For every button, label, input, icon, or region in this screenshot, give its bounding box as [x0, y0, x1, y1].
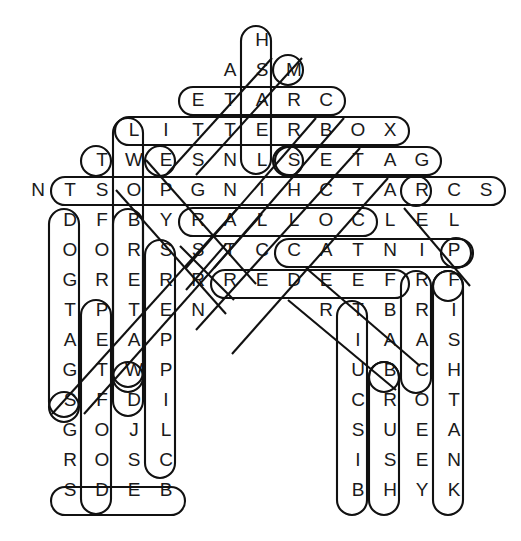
grid-letter: E — [406, 445, 438, 475]
grid-letter: E — [150, 145, 182, 175]
grid-letter: A — [214, 205, 246, 235]
grid-letter: T — [342, 295, 374, 325]
grid-letter: B — [118, 205, 150, 235]
grid-letter: E — [118, 265, 150, 295]
grid-letter: E — [182, 85, 214, 115]
grid-letter: S — [182, 145, 214, 175]
grid-letter: B — [374, 355, 406, 385]
grid-letter: L — [374, 205, 406, 235]
grid-letter: P — [150, 355, 182, 385]
grid-letter: R — [406, 295, 438, 325]
grid-letter: A — [374, 145, 406, 175]
grid-letter: S — [54, 475, 86, 505]
grid-letter: O — [86, 415, 118, 445]
grid-letter: T — [214, 235, 246, 265]
grid-letter: R — [118, 235, 150, 265]
grid-letter: R — [278, 115, 310, 145]
grid-letter: G — [54, 415, 86, 445]
grid-letter: R — [406, 265, 438, 295]
grid-letter: C — [278, 235, 310, 265]
grid-letter: O — [310, 205, 342, 235]
grid-letter: T — [54, 175, 86, 205]
grid-letter: A — [246, 85, 278, 115]
grid-letter: B — [310, 115, 342, 145]
grid-letter: O — [86, 445, 118, 475]
grid-letter: H — [246, 25, 278, 55]
grid-letter: A — [406, 325, 438, 355]
grid-letter: L — [246, 205, 278, 235]
grid-letter: H — [438, 355, 470, 385]
grid-letter: T — [214, 85, 246, 115]
grid-letter: A — [374, 325, 406, 355]
grid-letter: T — [86, 145, 118, 175]
grid-letter: N — [22, 175, 54, 205]
grid-letter: G — [182, 175, 214, 205]
grid-letter: R — [214, 265, 246, 295]
grid-letter: F — [374, 265, 406, 295]
grid-letter: T — [342, 235, 374, 265]
grid-letter: G — [54, 265, 86, 295]
grid-letter: I — [342, 445, 374, 475]
grid-letter: O — [54, 235, 86, 265]
grid-letter: O — [406, 385, 438, 415]
grid-letter: T — [86, 355, 118, 385]
grid-letter: I — [150, 385, 182, 415]
grid-letter: C — [310, 175, 342, 205]
grid-letter: N — [182, 295, 214, 325]
grid-letter: R — [150, 265, 182, 295]
grid-letter: E — [150, 295, 182, 325]
grid-letter: S — [150, 235, 182, 265]
grid-letter: U — [374, 415, 406, 445]
grid-letter: R — [406, 175, 438, 205]
grid-letter: K — [438, 475, 470, 505]
grid-letter: P — [86, 295, 118, 325]
grid-letter: S — [86, 175, 118, 205]
grid-letter: O — [86, 235, 118, 265]
grid-letter: I — [246, 175, 278, 205]
grid-letter: E — [310, 145, 342, 175]
grid-letter: E — [406, 205, 438, 235]
grid-letter: E — [246, 265, 278, 295]
grid-letter: R — [182, 265, 214, 295]
grid-letter: I — [406, 235, 438, 265]
grid-letter: N — [214, 145, 246, 175]
grid-letter: E — [118, 475, 150, 505]
grid-letter: D — [278, 265, 310, 295]
grid-letter: C — [246, 235, 278, 265]
grid-letter: T — [214, 115, 246, 145]
grid-letter: W — [118, 355, 150, 385]
grid-letter: P — [150, 325, 182, 355]
grid-letter: E — [406, 415, 438, 445]
grid-letter: A — [118, 325, 150, 355]
grid-letter: O — [342, 115, 374, 145]
grid-letter: P — [438, 235, 470, 265]
grid-letter: A — [374, 175, 406, 205]
grid-letter: E — [246, 115, 278, 145]
grid-letter: G — [54, 355, 86, 385]
grid-letter: R — [310, 295, 342, 325]
grid-letter: S — [342, 415, 374, 445]
grid-letter: S — [118, 445, 150, 475]
grid-letter: T — [342, 145, 374, 175]
grid-letter: P — [150, 175, 182, 205]
grid-letter: L — [438, 205, 470, 235]
grid-letter: C — [406, 355, 438, 385]
grid-letter: C — [150, 445, 182, 475]
grid-letter: L — [246, 145, 278, 175]
grid-letter: S — [438, 325, 470, 355]
grid-letter: R — [182, 205, 214, 235]
grid-letter: H — [278, 175, 310, 205]
grid-letter: W — [118, 145, 150, 175]
grid-letter: N — [374, 235, 406, 265]
grid-letter: X — [374, 115, 406, 145]
grid-letter: D — [54, 205, 86, 235]
grid-letter: A — [438, 415, 470, 445]
grid-letter: R — [374, 385, 406, 415]
grid-letter: R — [54, 445, 86, 475]
grid-letter: T — [342, 175, 374, 205]
grid-letter: I — [438, 295, 470, 325]
grid-letter: S — [278, 145, 310, 175]
grid-letter: C — [310, 85, 342, 115]
grid-letter: B — [150, 475, 182, 505]
grid-letter: F — [438, 265, 470, 295]
